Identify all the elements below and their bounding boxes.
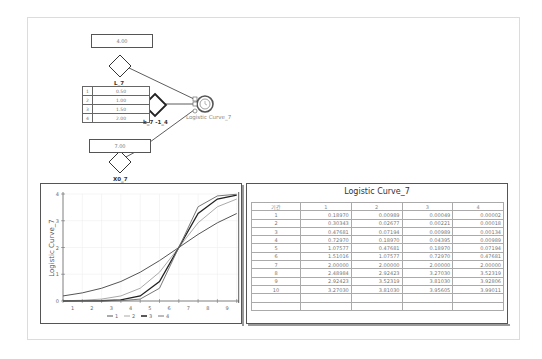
grid bbox=[63, 194, 239, 301]
x-tick-label: 9 bbox=[225, 305, 228, 311]
k-node-label: k_7 -1_4 bbox=[143, 119, 168, 125]
value-cell: 2.00000 bbox=[301, 261, 352, 269]
table-row: 30.476810.071940.009890.00134 bbox=[252, 227, 504, 235]
value-cell: 0.00989 bbox=[453, 236, 504, 244]
value-cell: 0.18970 bbox=[301, 211, 352, 219]
X0-variable-diamond-icon[interactable] bbox=[109, 151, 131, 173]
value-cell: 3.52319 bbox=[351, 277, 402, 285]
value-cell bbox=[351, 302, 402, 310]
period-cell: 8 bbox=[252, 269, 301, 277]
value-cell: 3.52319 bbox=[453, 269, 504, 277]
table-row: 72.000002.000002.000002.00000 bbox=[252, 261, 504, 269]
value-cell: 3.99011 bbox=[453, 285, 504, 293]
period-cell: 5 bbox=[252, 244, 301, 252]
value-cell bbox=[351, 294, 402, 302]
value-cell: 2.92423 bbox=[351, 269, 402, 277]
X0-node-label: X0_7 bbox=[113, 176, 128, 182]
k-index: 2 bbox=[83, 96, 93, 105]
column-header-series: 3 bbox=[402, 203, 453, 211]
period-cell bbox=[252, 302, 301, 310]
value-cell: 0.00989 bbox=[402, 227, 453, 235]
value-cell: 2.00000 bbox=[453, 261, 504, 269]
value-cell bbox=[402, 294, 453, 302]
period-cell: 2 bbox=[252, 219, 301, 227]
value-cell bbox=[402, 302, 453, 310]
L-value-box[interactable]: 4.00 bbox=[91, 34, 153, 48]
table-row: 92.924233.523193.810303.92806 bbox=[252, 277, 504, 285]
value-cell: 2.92423 bbox=[301, 277, 352, 285]
legend-label: 3 bbox=[149, 313, 152, 319]
period-cell: 7 bbox=[252, 261, 301, 269]
table-row: 51.075770.476810.189700.07194 bbox=[252, 244, 504, 252]
value-cell: 0.72970 bbox=[301, 236, 352, 244]
value-cell: 3.27030 bbox=[402, 269, 453, 277]
value-cell bbox=[301, 294, 352, 302]
table-row: 40.729700.189700.043950.00989 bbox=[252, 236, 504, 244]
table-row bbox=[252, 294, 504, 302]
k-values-table[interactable]: 10.50 21.00 31.50 42.00 bbox=[82, 86, 150, 123]
value-cell: 0.00049 bbox=[402, 211, 453, 219]
L-variable-diamond-icon[interactable] bbox=[109, 55, 131, 77]
period-cell: 10 bbox=[252, 285, 301, 293]
logistic-curve-node-icon[interactable] bbox=[197, 96, 213, 112]
y-tick-label: 2 bbox=[56, 245, 59, 251]
value-cell: 0.18970 bbox=[351, 236, 402, 244]
value-cell: 0.07194 bbox=[453, 244, 504, 252]
value-cell: 0.00018 bbox=[453, 219, 504, 227]
value-cell: 0.07194 bbox=[351, 227, 402, 235]
k-value: 1.00 bbox=[93, 96, 150, 105]
value-cell: 0.30343 bbox=[301, 219, 352, 227]
x-tick-label: 8 bbox=[206, 305, 209, 311]
line-chart: 012341234567891234 bbox=[41, 184, 241, 323]
value-cell: 1.07577 bbox=[301, 244, 352, 252]
k-index: 4 bbox=[83, 114, 93, 123]
k-value: 2.00 bbox=[93, 114, 150, 123]
value-cell: 0.47681 bbox=[301, 227, 352, 235]
legend-label: 1 bbox=[115, 313, 118, 319]
value-cell: 2.00000 bbox=[402, 261, 453, 269]
value-cell: 0.00002 bbox=[453, 211, 504, 219]
y-tick-label: 1 bbox=[56, 271, 59, 277]
period-cell: 9 bbox=[252, 277, 301, 285]
value-cell bbox=[301, 302, 352, 310]
x-tick-label: 4 bbox=[129, 305, 132, 311]
value-cell: 1.07577 bbox=[351, 252, 402, 260]
legend-label: 4 bbox=[166, 313, 169, 319]
table-row: 82.489842.924233.270303.52319 bbox=[252, 269, 504, 277]
value-cell: 3.95605 bbox=[402, 285, 453, 293]
value-cell: 3.27030 bbox=[301, 285, 352, 293]
value-cell: 0.04395 bbox=[402, 236, 453, 244]
value-cell: 0.02677 bbox=[351, 219, 402, 227]
X0-value-box[interactable]: 7.00 bbox=[89, 139, 151, 153]
period-cell: 3 bbox=[252, 227, 301, 235]
value-cell: 0.18970 bbox=[402, 244, 453, 252]
period-cell: 1 bbox=[252, 211, 301, 219]
k-value: 1.50 bbox=[93, 105, 150, 114]
x-tick-label: 5 bbox=[148, 305, 151, 311]
value-cell: 2.00000 bbox=[351, 261, 402, 269]
x-tick-label: 2 bbox=[90, 305, 93, 311]
legend-label: 2 bbox=[132, 313, 135, 319]
table-row: 20.303430.026770.002210.00018 bbox=[252, 219, 504, 227]
x-tick-label: 6 bbox=[168, 305, 171, 311]
value-cell: 0.00221 bbox=[402, 219, 453, 227]
value-cell: 1.51016 bbox=[301, 252, 352, 260]
y-tick-label: 4 bbox=[56, 191, 59, 197]
table-title: Logistic Curve_7 bbox=[247, 187, 507, 196]
value-cell: 0.47681 bbox=[351, 244, 402, 252]
x-tick-label: 3 bbox=[110, 305, 113, 311]
series-line-1 bbox=[63, 214, 237, 296]
value-cell bbox=[453, 302, 504, 310]
results-table: 기간1234 10.189700.009890.000490.0000220.3… bbox=[251, 202, 504, 311]
table-row: 61.510161.075770.729700.47681 bbox=[252, 252, 504, 260]
series-line-2 bbox=[63, 199, 237, 301]
value-cell: 0.47681 bbox=[453, 252, 504, 260]
value-cell: 0.00134 bbox=[453, 227, 504, 235]
y-tick-label: 0 bbox=[56, 298, 59, 304]
table-row bbox=[252, 302, 504, 310]
k-value: 0.50 bbox=[93, 87, 150, 96]
period-cell: 6 bbox=[252, 252, 301, 260]
column-header-series: 1 bbox=[301, 203, 352, 211]
period-cell bbox=[252, 294, 301, 302]
value-cell: 0.00989 bbox=[351, 211, 402, 219]
